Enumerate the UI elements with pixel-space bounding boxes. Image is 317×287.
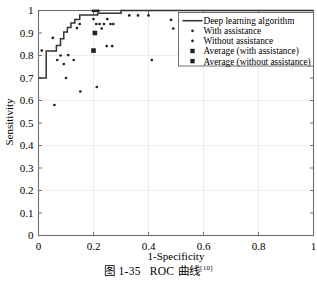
data-point-dot	[79, 90, 82, 93]
data-point-dot	[109, 23, 112, 26]
data-point-average-square	[91, 48, 96, 53]
roc-chart: 00.20.40.60.81 00.10.20.30.40.50.60.70.8…	[0, 0, 317, 287]
data-point-dot	[59, 54, 62, 57]
chart-legend: Deep learning algorithmWith assistanceWi…	[179, 13, 314, 68]
data-point-dot	[97, 10, 100, 13]
data-point-dot	[62, 63, 65, 66]
data-point-dot	[147, 14, 150, 17]
x-tick-label: 0.2	[87, 240, 101, 252]
y-tick-label: 0.4	[20, 139, 34, 151]
x-tick-label: 0.8	[252, 240, 266, 252]
data-point-dot	[150, 59, 153, 62]
caption-figure-number: 图 1-35	[104, 265, 141, 277]
y-tick-label: 0.9	[20, 27, 34, 39]
roc-curve-figure: 00.20.40.60.81 00.10.20.30.40.50.60.70.8…	[0, 0, 317, 287]
data-point-dot	[172, 27, 175, 30]
legend-marker-square	[190, 59, 194, 63]
x-tick-label: 1	[311, 240, 317, 252]
data-point-dot	[128, 14, 131, 17]
y-tick-label: 0.7	[20, 72, 34, 84]
y-tick-label: 0.5	[20, 117, 34, 129]
figure-caption: 图 1-35ROC 曲线[10]	[0, 262, 317, 278]
caption-title: ROC 曲线	[150, 265, 200, 277]
y-tick-label: 0.2	[20, 184, 34, 196]
data-point-dot	[137, 14, 140, 17]
legend-label: Deep learning algorithm	[204, 16, 296, 26]
data-point-dot	[170, 19, 173, 22]
data-point-dot	[65, 77, 68, 80]
x-axis-label: 1-Specificity	[148, 250, 205, 262]
data-point-dot	[103, 23, 106, 26]
data-point-dot	[67, 54, 70, 57]
y-axis-tick-labels: 00.10.20.30.40.50.60.70.80.91	[20, 4, 34, 241]
data-point-dot	[92, 18, 95, 21]
y-axis-label: Sensitivity	[3, 98, 15, 146]
data-point-dot	[112, 23, 115, 26]
y-tick-label: 0.6	[20, 94, 34, 106]
data-point-dot	[56, 59, 59, 62]
legend-label: Without assistance	[204, 36, 274, 46]
data-point-dot	[98, 23, 101, 26]
caption-reference: [10]	[200, 264, 213, 272]
data-point-dot	[76, 27, 79, 30]
legend-marker-dot	[191, 40, 194, 43]
data-point-dot	[105, 45, 108, 48]
data-point-dot	[106, 18, 109, 21]
data-point-dot	[95, 23, 98, 26]
y-tick-label: 0.8	[20, 49, 34, 61]
data-point-dot	[95, 86, 98, 89]
y-tick-label: 0.3	[20, 162, 34, 174]
legend-label: Average (without assistance)	[204, 57, 311, 68]
y-tick-label: 1	[28, 4, 34, 16]
data-point-dot	[78, 23, 81, 26]
legend-marker-dot	[191, 29, 194, 32]
data-point-dot	[100, 27, 103, 30]
data-point-dot	[72, 59, 75, 62]
x-tick-label: 0	[36, 240, 42, 252]
y-tick-label: 0.1	[20, 207, 34, 219]
legend-label: With assistance	[204, 26, 262, 36]
data-point-dot	[40, 49, 43, 52]
legend-marker-square	[190, 49, 194, 53]
data-point-dot	[53, 104, 56, 107]
y-tick-label: 0	[28, 229, 34, 241]
data-point-average-square	[93, 31, 98, 36]
data-point-dot	[111, 45, 114, 48]
data-point-dot	[51, 37, 54, 40]
